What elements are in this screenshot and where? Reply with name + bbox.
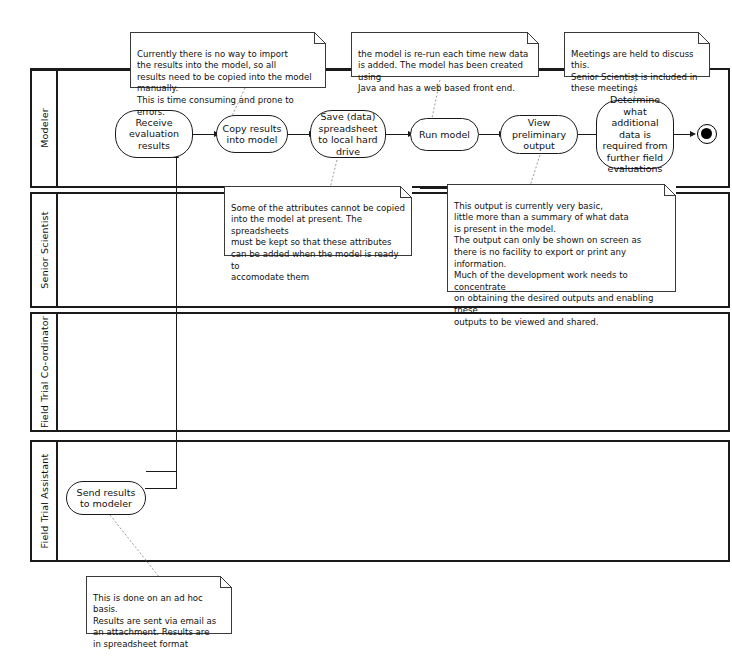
swimlane-label-cell-modeler: Modeler (32, 70, 58, 186)
note-import-manual: Currently there is no way to import the … (130, 32, 326, 88)
swimlane-label-cell-field-trial-assistant: Field Trial Assistant (32, 442, 58, 560)
activity-send-results-to-modeler[interactable]: Send results to modeler (66, 481, 146, 515)
swimlane-label-modeler: Modeler (39, 108, 50, 148)
note-anchor-stub-mid-2 (539, 70, 564, 71)
activity-view-preliminary-output[interactable]: View preliminary output (500, 115, 578, 154)
swimlane-field-trial-coordinator: Field Trial Co-ordinator (30, 312, 730, 432)
note-model-rerun: the model is re-run each time new data i… (351, 32, 539, 77)
diagram-canvas: Modeler Senior Scientist Field Trial Co-… (0, 0, 732, 662)
activity-copy-results-into-model[interactable]: Copy results into model (216, 115, 288, 153)
flow-arrow-determine-to-end (690, 131, 696, 137)
activity-label-copy-results-into-model: Copy results into model (221, 123, 283, 146)
flow-copy-to-save (288, 134, 311, 135)
flow-run-to-view (479, 134, 501, 135)
swimlane-label-cell-senior-scientist: Senior Scientist (32, 194, 58, 306)
note-anchor-stub-senior-left (420, 188, 447, 189)
activity-label-send-results-to-modeler: Send results to modeler (71, 487, 141, 510)
flow-send-results-vertical (176, 155, 177, 489)
note-text-model-rerun: the model is re-run each time new data i… (358, 49, 528, 94)
note-meetings: Meetings are held to discuss this. Senio… (564, 32, 710, 77)
swimlane-label-field-trial-assistant: Field Trial Assistant (39, 454, 50, 549)
activity-label-determine-additional-data: Determine what additional data is requir… (601, 94, 669, 175)
note-attributes-spreadsheets: Some of the attributes cannot be copied … (224, 186, 412, 256)
activity-label-view-preliminary-output: View preliminary output (505, 117, 573, 152)
activity-label-receive-evaluation-results: Receive evaluation results (120, 117, 188, 152)
note-anchor-stub-assistant (146, 471, 176, 472)
flow-save-to-run (385, 134, 410, 135)
activity-determine-additional-data[interactable]: Determine what additional data is requir… (596, 100, 674, 169)
activity-run-model[interactable]: Run model (410, 118, 479, 151)
flow-send-results-right-segment (145, 488, 177, 489)
swimlane-label-senior-scientist: Senior Scientist (39, 211, 50, 288)
flow-receive-to-copy (193, 134, 216, 135)
swimlane-label-cell-field-trial-coordinator: Field Trial Co-ordinator (32, 314, 58, 430)
swimlane-label-field-trial-coordinator: Field Trial Co-ordinator (39, 316, 50, 428)
flow-view-to-determine (577, 134, 598, 135)
note-anchor-stub-mid-1 (325, 70, 351, 71)
note-anchor-stub-left (30, 70, 130, 71)
activity-final-node (697, 124, 717, 144)
note-ad-hoc-email: This is done on an ad hoc basis. Results… (86, 576, 232, 634)
note-output-basic: This output is currently very basic, lit… (447, 184, 676, 292)
activity-label-run-model: Run model (419, 129, 470, 141)
activity-label-save-data-spreadsheet: Save (data) spreadsheet to local hard dr… (315, 111, 381, 157)
note-anchor-stub-senior-left-2 (420, 192, 447, 193)
swimlane-body-field-trial-assistant (58, 442, 728, 560)
swimlane-body-field-trial-coordinator (58, 314, 728, 430)
activity-save-data-spreadsheet[interactable]: Save (data) spreadsheet to local hard dr… (310, 110, 386, 158)
note-text-ad-hoc-email: This is done on an ad hoc basis. Results… (93, 593, 216, 649)
note-text-import-manual: Currently there is no way to import the … (137, 49, 312, 117)
